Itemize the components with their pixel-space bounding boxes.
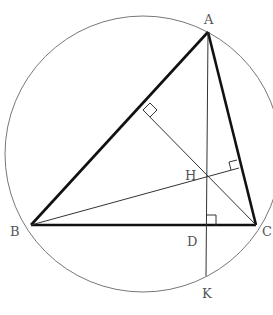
altitude-a-to-k <box>206 32 208 276</box>
label-h: H <box>185 168 196 183</box>
right-angle-mark-d <box>206 215 216 225</box>
right-angle-mark-f <box>143 103 157 117</box>
side-ac <box>208 32 256 225</box>
side-ab <box>31 32 208 225</box>
label-b: B <box>10 224 20 239</box>
label-c: C <box>262 224 272 239</box>
label-a: A <box>203 12 214 27</box>
altitude-b-to-ac <box>31 168 239 225</box>
label-d: D <box>187 234 197 249</box>
altitude-c-to-ab <box>143 110 256 225</box>
label-k: K <box>202 286 212 301</box>
geometry-diagram: A B C H D K <box>0 0 273 315</box>
circumcircle <box>5 16 273 292</box>
